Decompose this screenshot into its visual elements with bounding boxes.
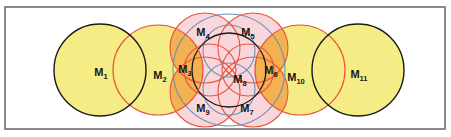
circle-overlap-diagram: M1 M2 M3 M4 M5 M6 M7 M8 M9 M10 M11 — [0, 0, 451, 137]
figure-root: M1 M2 M3 M4 M5 M6 M7 M8 M9 M10 M11 — [0, 0, 451, 137]
